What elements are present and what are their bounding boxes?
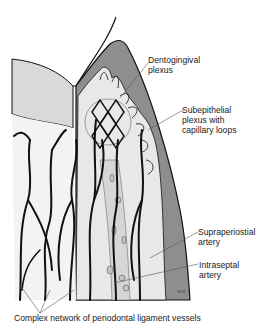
label-line: Supraperiostial: [198, 227, 255, 237]
label-line: artery: [199, 270, 239, 280]
label-subepithelial-plexus: Subepithelial plexus with capillary loop…: [182, 105, 236, 135]
label-line: Dentogingival: [148, 55, 200, 65]
label-line: artery: [198, 237, 255, 247]
label-pdl-vessels: Complex network of periodontal ligament …: [14, 313, 201, 323]
label-line: capillary loops: [182, 125, 236, 135]
label-line: Complex network of periodontal ligament …: [14, 313, 201, 323]
label-line: Intraseptal: [199, 260, 239, 270]
label-intraseptal-artery: Intraseptal artery: [199, 260, 239, 280]
label-line: plexus with: [182, 115, 236, 125]
artist-credit: ECW: [178, 290, 185, 294]
label-supraperiostial-artery: Supraperiostial artery: [198, 227, 255, 247]
label-line: Subepithelial: [182, 105, 236, 115]
label-dentogingival-plexus: Dentogingival plexus: [148, 55, 200, 75]
label-line: plexus: [148, 65, 200, 75]
